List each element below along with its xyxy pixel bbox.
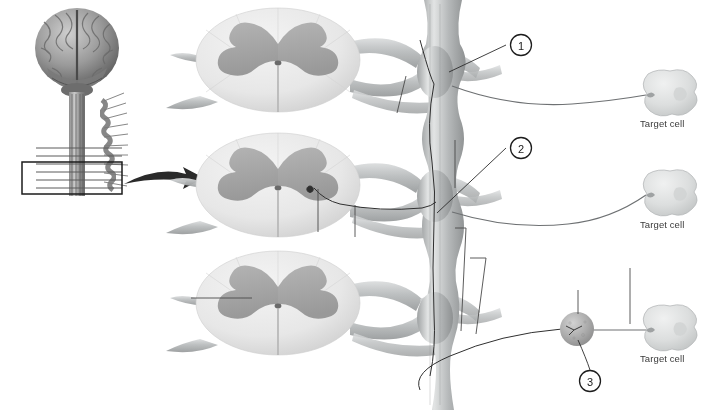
target-cell-2 — [643, 170, 697, 216]
target-cell-label-1: Target cell — [640, 118, 684, 129]
prevertebral-ganglion — [560, 312, 594, 346]
central-canal-bottom — [275, 304, 282, 309]
target-cell-3 — [643, 305, 697, 351]
central-canal-middle — [275, 186, 282, 191]
sympathetic-chain-ganglion-bottom — [417, 292, 453, 344]
target-cell-label-3: Target cell — [640, 353, 684, 364]
callout-number-3: 3 — [587, 376, 593, 388]
preganglionic-cell-body-2 — [307, 186, 313, 192]
brain-icon — [35, 8, 119, 97]
figure-canvas: 1 2 3 Target cell Target cell Target cel… — [0, 0, 706, 411]
target-cell-label-2: Target cell — [640, 219, 684, 230]
sympathetic-chain-ganglion-top — [417, 46, 453, 98]
postganglionic-axon-1 — [452, 86, 646, 105]
target-cells-group — [643, 70, 697, 351]
brain-and-spinal-cord-inset — [22, 8, 204, 196]
central-canal-top — [275, 61, 282, 66]
diagram-svg: 1 2 3 — [0, 0, 706, 411]
callout-number-2: 2 — [518, 143, 524, 155]
vertebral-column-icon — [102, 93, 128, 190]
target-cell-1 — [643, 70, 697, 116]
callout-leader-3 — [578, 340, 590, 370]
callout-number-1: 1 — [518, 40, 524, 52]
